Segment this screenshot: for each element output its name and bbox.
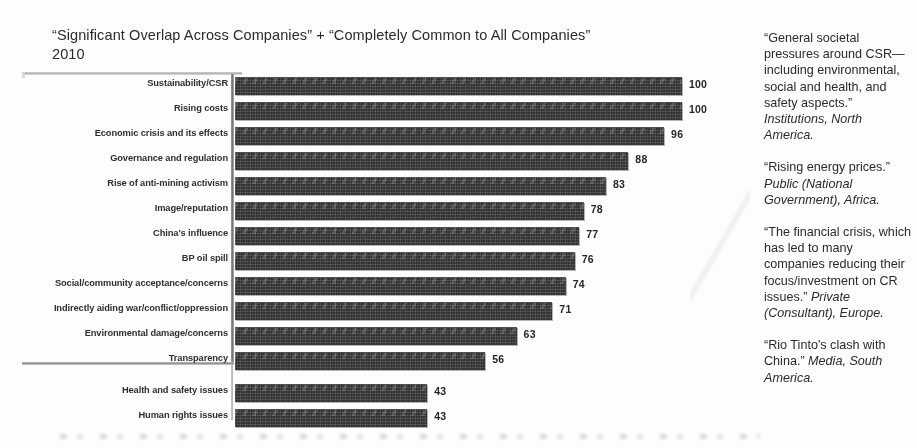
bar: [235, 127, 664, 145]
chart-row: Indirectly aiding war/conflict/oppressio…: [0, 299, 760, 324]
bar-category-label: Economic crisis and its effects: [95, 128, 228, 139]
chart-row: Economic crisis and its effects96: [0, 124, 760, 149]
bar: [235, 409, 427, 427]
bar: [235, 252, 575, 270]
chart-row: Transparency56: [0, 349, 760, 374]
bar-container: [235, 327, 517, 345]
quote-block: “Rio Tinto's clash with China.” Media, S…: [764, 337, 914, 386]
bar-container: [235, 384, 427, 402]
bar-value-label: 100: [689, 103, 707, 115]
bar-category-label: Transparency: [169, 353, 228, 364]
chart-row: Image/reputation78: [0, 199, 760, 224]
chart-row: Social/community acceptance/concerns74: [0, 274, 760, 299]
bar-value-label: 77: [586, 228, 598, 240]
quote-block: “The financial crisis, which has led to …: [764, 224, 914, 321]
bar-value-label: 76: [582, 253, 594, 265]
bar-container: [235, 409, 427, 427]
bar-value-label: 96: [671, 128, 683, 140]
bar-category-label: Rising costs: [174, 103, 228, 114]
bar: [235, 177, 606, 195]
bar: [235, 384, 427, 402]
quote-source: Institutions, North America.: [764, 112, 862, 142]
bar-value-label: 63: [524, 328, 536, 340]
scan-artifact-secondary: [690, 186, 750, 306]
bar-value-label: 83: [613, 178, 625, 190]
bar-container: [235, 302, 552, 320]
bar-container: [235, 352, 485, 370]
bar-category-label: China's influence: [153, 228, 228, 239]
quote-sidebar: “General societal pressures around CSR—i…: [764, 30, 914, 402]
quote-source: Public (National Government), Africa.: [764, 177, 880, 207]
chart-row: Sustainability/CSR100: [0, 74, 760, 99]
bar-value-label: 100: [689, 78, 707, 90]
bar-value-label: 56: [492, 353, 504, 365]
bar-container: [235, 102, 682, 120]
bar-category-label: Image/reputation: [155, 203, 228, 214]
chart-row: Health and safety issues43: [0, 381, 760, 406]
bar-category-label: Environmental damage/concerns: [85, 328, 228, 339]
chart-title: “Significant Overlap Across Companies” +…: [52, 26, 712, 64]
bar-container: [235, 252, 575, 270]
chart-row: Rise of anti-mining activism83: [0, 174, 760, 199]
bar: [235, 227, 579, 245]
chart-row: BP oil spill76: [0, 249, 760, 274]
bar-value-label: 74: [573, 278, 585, 290]
bar-container: [235, 277, 566, 295]
bar: [235, 202, 584, 220]
quote-block: “Rising energy prices.” Public (National…: [764, 159, 914, 208]
bar: [235, 302, 552, 320]
bar-value-label: 43: [434, 410, 446, 422]
bar-category-label: Governance and regulation: [110, 153, 228, 164]
bar-value-label: 88: [635, 153, 647, 165]
bar-value-label: 71: [559, 303, 571, 315]
bar: [235, 352, 485, 370]
bar-container: [235, 127, 664, 145]
bar-value-label: 78: [591, 203, 603, 215]
bar: [235, 277, 566, 295]
bar: [235, 102, 682, 120]
bar: [235, 152, 628, 170]
bar-container: [235, 227, 579, 245]
bar-category-label: Human rights issues: [138, 410, 228, 421]
chart-row: Human rights issues43: [0, 406, 760, 431]
bar-category-label: Social/community acceptance/concerns: [55, 278, 228, 289]
quote-text: “Rising energy prices.”: [764, 160, 890, 174]
bar-container: [235, 77, 682, 95]
bar-container: [235, 202, 584, 220]
chart-row: China's influence77: [0, 224, 760, 249]
bar-chart-plot-area: Sustainability/CSR100Rising costs100Econ…: [0, 74, 760, 424]
bar-category-label: Sustainability/CSR: [147, 78, 228, 89]
chart-page: “Significant Overlap Across Companies” +…: [0, 0, 917, 448]
bar-category-label: Rise of anti-mining activism: [107, 178, 228, 189]
quote-text: “General societal pressures around CSR—i…: [764, 31, 905, 110]
bar: [235, 327, 517, 345]
chart-row: Governance and regulation88: [0, 149, 760, 174]
bar-value-label: 43: [434, 385, 446, 397]
chart-row: Environmental damage/concerns63: [0, 324, 760, 349]
bar-container: [235, 177, 606, 195]
bar-category-label: Indirectly aiding war/conflict/oppressio…: [54, 303, 228, 314]
chart-row: Rising costs100: [0, 99, 760, 124]
quote-block: “General societal pressures around CSR—i…: [764, 30, 914, 143]
bar-container: [235, 152, 628, 170]
bar-category-label: Health and safety issues: [122, 385, 228, 396]
bar-category-label: BP oil spill: [182, 253, 228, 264]
bar: [235, 77, 682, 95]
scan-artifact: [60, 434, 760, 439]
